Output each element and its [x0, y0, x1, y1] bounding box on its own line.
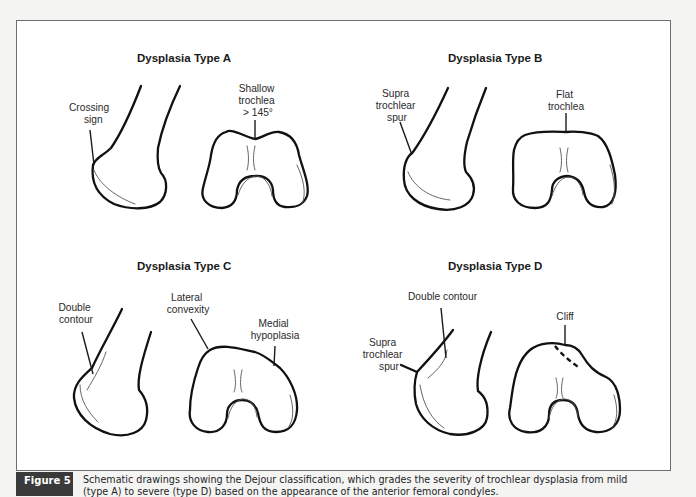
- annotation-supra-trochlear-spur-d: Supra trochlear spur: [363, 337, 405, 372]
- caption-text: Schematic drawings showing the Dejour cl…: [73, 472, 696, 496]
- axial-condyle-drawing: [509, 343, 620, 432]
- caption-line-2: (type A) to severe (type D) based on the…: [83, 486, 696, 497]
- panel-type-b: Dysplasia Type B Supra trochlear spur Fl…: [376, 52, 616, 210]
- axial-condyle-drawing: [513, 132, 616, 208]
- leader-line: [274, 346, 275, 366]
- annotation-medial-hypoplasia: Medial hypoplasia: [251, 318, 300, 341]
- annotation-double-contour: Double contour: [58, 302, 93, 325]
- leader-line: [82, 332, 93, 374]
- leader-line: [400, 122, 412, 155]
- lateral-femur-drawing: [401, 330, 491, 435]
- annotation-double-contour-d: Double contour: [408, 291, 478, 302]
- annotation-cliff: Cliff: [556, 311, 574, 322]
- annotation-supra-trochlear-spur: Supra trochlear spur: [376, 88, 418, 123]
- leader-line: [90, 130, 94, 165]
- annotation-flat-trochlea: Flat trochlea: [548, 89, 585, 112]
- lateral-femur-drawing: [74, 309, 152, 435]
- axial-condyle-drawing: [190, 347, 297, 432]
- annotation-shallow-trochlea: Shallow trochlea > 145°: [238, 83, 277, 118]
- caption-line-1: Schematic drawings showing the Dejour cl…: [83, 474, 696, 486]
- panel-type-a: Dysplasia Type A Crossing sign Shallow t…: [69, 52, 308, 208]
- panel-title: Dysplasia Type B: [448, 52, 542, 64]
- annotation-lateral-convexity: Lateral convexity: [167, 292, 210, 315]
- panel-type-d: Dysplasia Type D Double contour Supra tr…: [363, 260, 620, 435]
- leader-line: [191, 319, 208, 349]
- figure-label: Figure 5: [16, 472, 73, 496]
- panel-title: Dysplasia Type A: [137, 52, 231, 64]
- axial-condyle-drawing: [202, 131, 307, 208]
- panel-title: Dysplasia Type D: [448, 260, 542, 272]
- annotation-crossing-sign: Crossing sign: [69, 102, 112, 125]
- figure-caption: Figure 5 Schematic drawings showing the …: [16, 472, 696, 496]
- panel-title: Dysplasia Type C: [137, 260, 231, 272]
- panel-type-c: Dysplasia Type C Double contour Lateral …: [58, 260, 299, 435]
